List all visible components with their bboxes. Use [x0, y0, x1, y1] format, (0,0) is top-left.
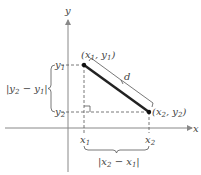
horizontal-brace	[84, 146, 149, 153]
tick-x1: x1	[80, 134, 90, 147]
tick-x2: x2	[145, 134, 156, 147]
vertical-brace-label: |y2 − y1|	[6, 83, 48, 96]
horizontal-brace-label: |x2 − x1|	[98, 156, 140, 169]
point-2-label: (x2, y2)	[152, 106, 187, 119]
d-brace	[89, 58, 153, 107]
distance-segment	[84, 65, 149, 112]
tick-y2: y2	[54, 106, 66, 119]
point-2	[147, 110, 151, 114]
tick-y1: y1	[54, 59, 65, 72]
x-axis-label: x	[193, 123, 199, 134]
vertical-brace	[48, 65, 55, 112]
distance-diagram: x y d (x1, y1) (x2, y2) y1 y2 x1 x2 |y2 …	[0, 0, 201, 175]
point-1	[82, 63, 86, 67]
segment-label-d: d	[124, 71, 130, 82]
right-angle-mark	[84, 106, 90, 112]
diagram-canvas: x y d (x1, y1) (x2, y2) y1 y2 x1 x2 |y2 …	[0, 0, 201, 175]
y-axis-label: y	[64, 5, 71, 16]
point-1-label: (x1, y1)	[81, 49, 116, 62]
